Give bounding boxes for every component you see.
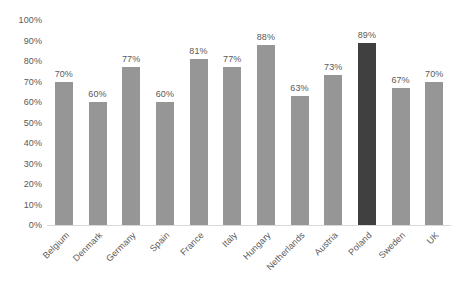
x-axis-tick-label: Spain (148, 230, 172, 254)
y-axis-tick-label: 60% (24, 97, 42, 107)
bar[interactable]: 67% (392, 88, 410, 225)
bar-slot: 88% (249, 20, 283, 225)
x-axis-tick: UK (417, 226, 451, 303)
bar-value-label: 60% (88, 89, 106, 99)
y-axis-tick-label: 90% (24, 36, 42, 46)
bar-slot: 60% (81, 20, 115, 225)
bar-value-label: 73% (324, 62, 342, 72)
bar-value-label: 81% (189, 46, 207, 56)
bar-value-label: 89% (358, 30, 376, 40)
bar-value-label: 67% (391, 75, 409, 85)
y-axis: 0%10%20%30%40%50%60%70%80%90%100% (0, 0, 46, 303)
bar-value-label: 70% (425, 69, 443, 79)
bar[interactable]: 77% (122, 67, 140, 225)
bar-slot: 60% (148, 20, 182, 225)
bar[interactable]: 70% (425, 82, 443, 226)
x-axis-tick: Italy (215, 226, 249, 303)
y-axis-tick-label: 10% (24, 200, 42, 210)
plot-area: 70%60%77%60%81%77%88%63%73%89%67%70% (47, 20, 451, 225)
y-axis-tick-label: 40% (24, 138, 42, 148)
bar-value-label: 88% (257, 32, 275, 42)
x-axis-tick-label: UK (425, 230, 441, 246)
bar[interactable]: 63% (291, 96, 309, 225)
x-axis-tick: Belgium (47, 226, 81, 303)
bar-value-label: 70% (55, 69, 73, 79)
y-axis-tick-label: 20% (24, 179, 42, 189)
bar[interactable]: 70% (55, 82, 73, 226)
x-axis-tick: Netherlands (283, 226, 317, 303)
y-axis-tick-label: 50% (24, 118, 42, 128)
x-axis-tick-label: Italy (220, 230, 239, 249)
x-axis-tick: Germany (114, 226, 148, 303)
x-axis-tick: France (182, 226, 216, 303)
bar-value-label: 60% (156, 89, 174, 99)
bar-slot: 77% (114, 20, 148, 225)
bar-highlighted[interactable]: 89% (358, 43, 376, 225)
x-axis-tick-label: France (178, 230, 205, 257)
x-axis-tick-label: Austria (313, 230, 340, 257)
bar-series: 70%60%77%60%81%77%88%63%73%89%67%70% (47, 20, 451, 225)
bar-slot: 70% (417, 20, 451, 225)
bar[interactable]: 77% (223, 67, 241, 225)
bar-value-label: 77% (223, 54, 241, 64)
x-axis-tick: Spain (148, 226, 182, 303)
x-axis-tick: Austria (316, 226, 350, 303)
bar-slot: 81% (182, 20, 216, 225)
bar-value-label: 63% (290, 83, 308, 93)
bar-slot: 89% (350, 20, 384, 225)
bar-slot: 73% (316, 20, 350, 225)
bar-slot: 77% (215, 20, 249, 225)
x-axis-tick: Denmark (81, 226, 115, 303)
x-axis: BelgiumDenmarkGermanySpainFranceItalyHun… (47, 226, 451, 303)
y-axis-tick-label: 0% (29, 220, 42, 230)
bar-chart: 0%10%20%30%40%50%60%70%80%90%100% 70%60%… (0, 0, 461, 303)
x-axis-tick: Poland (350, 226, 384, 303)
bar-slot: 70% (47, 20, 81, 225)
bar[interactable]: 88% (257, 45, 275, 225)
bar-slot: 67% (384, 20, 418, 225)
x-axis-tick-label: Poland (347, 230, 374, 257)
bar[interactable]: 60% (156, 102, 174, 225)
y-axis-tick-label: 30% (24, 159, 42, 169)
bar[interactable]: 73% (324, 75, 342, 225)
bar-value-label: 77% (122, 54, 140, 64)
bar[interactable]: 60% (89, 102, 107, 225)
x-axis-tick: Sweden (384, 226, 418, 303)
bar-slot: 63% (283, 20, 317, 225)
y-axis-tick-label: 100% (19, 15, 42, 25)
bar[interactable]: 81% (190, 59, 208, 225)
y-axis-tick-label: 80% (24, 56, 42, 66)
y-axis-tick-label: 70% (24, 77, 42, 87)
